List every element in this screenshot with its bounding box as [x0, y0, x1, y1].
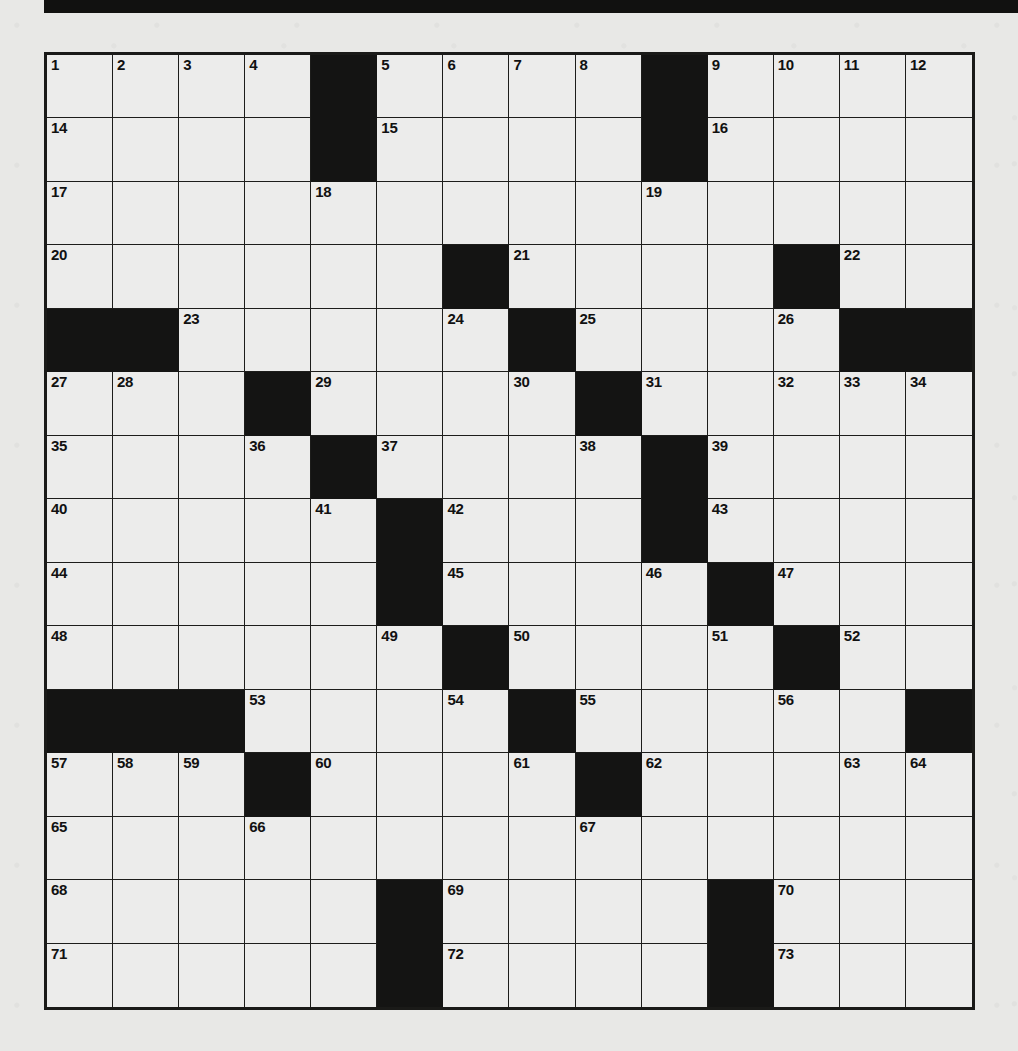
grid-cell[interactable]: [840, 563, 906, 626]
grid-cell[interactable]: [642, 626, 708, 689]
grid-cell[interactable]: 60: [311, 753, 377, 816]
grid-cell[interactable]: [576, 563, 642, 626]
grid-cell[interactable]: [311, 626, 377, 689]
grid-cell[interactable]: 2: [113, 55, 179, 118]
grid-cell[interactable]: 5: [377, 55, 443, 118]
grid-cell[interactable]: 29: [311, 372, 377, 435]
grid-cell[interactable]: 16: [708, 118, 774, 181]
grid-cell[interactable]: [179, 436, 245, 499]
grid-cell[interactable]: 59: [179, 753, 245, 816]
grid-cell[interactable]: 43: [708, 499, 774, 562]
grid-cell[interactable]: 24: [443, 309, 509, 372]
grid-cell[interactable]: [906, 245, 972, 308]
grid-cell[interactable]: 61: [509, 753, 575, 816]
grid-cell[interactable]: [179, 182, 245, 245]
grid-cell[interactable]: 49: [377, 626, 443, 689]
grid-cell[interactable]: 14: [47, 118, 113, 181]
grid-cell[interactable]: [311, 563, 377, 626]
grid-cell[interactable]: [113, 436, 179, 499]
grid-cell[interactable]: [509, 182, 575, 245]
grid-cell[interactable]: [708, 753, 774, 816]
grid-cell[interactable]: 22: [840, 245, 906, 308]
grid-cell[interactable]: 32: [774, 372, 840, 435]
grid-cell[interactable]: [576, 118, 642, 181]
grid-cell[interactable]: [708, 817, 774, 880]
grid-cell[interactable]: [840, 817, 906, 880]
grid-cell[interactable]: 51: [708, 626, 774, 689]
grid-cell[interactable]: 72: [443, 944, 509, 1007]
grid-cell[interactable]: 54: [443, 690, 509, 753]
grid-cell[interactable]: [708, 690, 774, 753]
grid-cell[interactable]: [245, 182, 311, 245]
grid-cell[interactable]: 7: [509, 55, 575, 118]
grid-cell[interactable]: [113, 182, 179, 245]
grid-cell[interactable]: 70: [774, 880, 840, 943]
grid-cell[interactable]: [708, 245, 774, 308]
grid-cell[interactable]: [774, 436, 840, 499]
grid-cell[interactable]: 42: [443, 499, 509, 562]
grid-cell[interactable]: 27: [47, 372, 113, 435]
grid-cell[interactable]: 34: [906, 372, 972, 435]
grid-cell[interactable]: 31: [642, 372, 708, 435]
grid-cell[interactable]: [509, 118, 575, 181]
grid-cell[interactable]: [774, 499, 840, 562]
grid-cell[interactable]: 45: [443, 563, 509, 626]
grid-cell[interactable]: 52: [840, 626, 906, 689]
grid-cell[interactable]: 6: [443, 55, 509, 118]
grid-cell[interactable]: [377, 372, 443, 435]
grid-cell[interactable]: 71: [47, 944, 113, 1007]
grid-cell[interactable]: [179, 944, 245, 1007]
grid-cell[interactable]: [840, 690, 906, 753]
grid-cell[interactable]: [377, 309, 443, 372]
grid-cell[interactable]: [377, 817, 443, 880]
grid-cell[interactable]: 68: [47, 880, 113, 943]
grid-cell[interactable]: [642, 880, 708, 943]
grid-cell[interactable]: 17: [47, 182, 113, 245]
grid-cell[interactable]: [179, 880, 245, 943]
grid-cell[interactable]: [245, 499, 311, 562]
grid-cell[interactable]: [906, 182, 972, 245]
grid-cell[interactable]: [642, 817, 708, 880]
grid-cell[interactable]: [179, 817, 245, 880]
grid-cell[interactable]: [245, 626, 311, 689]
grid-cell[interactable]: [443, 436, 509, 499]
grid-cell[interactable]: [906, 499, 972, 562]
grid-cell[interactable]: [113, 245, 179, 308]
grid-cell[interactable]: [576, 182, 642, 245]
grid-cell[interactable]: 20: [47, 245, 113, 308]
grid-cell[interactable]: 3: [179, 55, 245, 118]
grid-cell[interactable]: [113, 880, 179, 943]
grid-cell[interactable]: 4: [245, 55, 311, 118]
grid-cell[interactable]: 37: [377, 436, 443, 499]
grid-cell[interactable]: 57: [47, 753, 113, 816]
grid-cell[interactable]: [509, 944, 575, 1007]
grid-cell[interactable]: [377, 182, 443, 245]
grid-cell[interactable]: [113, 817, 179, 880]
grid-cell[interactable]: [311, 245, 377, 308]
grid-cell[interactable]: [906, 563, 972, 626]
grid-cell[interactable]: 62: [642, 753, 708, 816]
grid-cell[interactable]: [774, 182, 840, 245]
grid-cell[interactable]: 38: [576, 436, 642, 499]
grid-cell[interactable]: [906, 817, 972, 880]
grid-cell[interactable]: 39: [708, 436, 774, 499]
grid-cell[interactable]: [311, 309, 377, 372]
grid-cell[interactable]: [906, 880, 972, 943]
grid-cell[interactable]: [179, 118, 245, 181]
grid-cell[interactable]: [377, 245, 443, 308]
grid-cell[interactable]: [906, 944, 972, 1007]
grid-cell[interactable]: [840, 436, 906, 499]
grid-cell[interactable]: [576, 880, 642, 943]
grid-cell[interactable]: [443, 182, 509, 245]
grid-cell[interactable]: 67: [576, 817, 642, 880]
grid-cell[interactable]: [840, 944, 906, 1007]
grid-cell[interactable]: [509, 817, 575, 880]
grid-cell[interactable]: 25: [576, 309, 642, 372]
grid-cell[interactable]: [576, 245, 642, 308]
grid-cell[interactable]: 33: [840, 372, 906, 435]
grid-cell[interactable]: [642, 690, 708, 753]
grid-cell[interactable]: [113, 563, 179, 626]
grid-cell[interactable]: 21: [509, 245, 575, 308]
grid-cell[interactable]: [443, 372, 509, 435]
grid-cell[interactable]: 8: [576, 55, 642, 118]
